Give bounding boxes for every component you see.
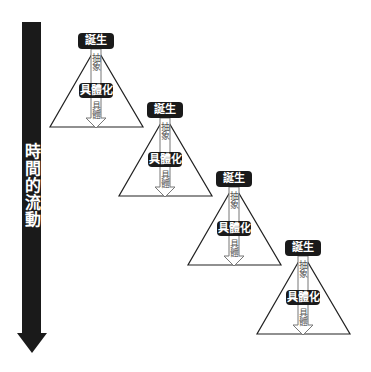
concrete-label: 具體 [229, 239, 239, 257]
abstract-label: 抽象 [91, 53, 101, 71]
concretize-label: 具體化 [79, 83, 113, 98]
abstract-label: 抽象 [160, 122, 170, 140]
abstract-label: 抽象 [298, 260, 308, 278]
concretize-label: 具體化 [217, 221, 251, 236]
abstract-label: 抽象 [229, 191, 239, 209]
birth-label: 誕生 [78, 33, 114, 49]
concretize-label: 具體化 [148, 152, 182, 167]
concrete-label: 具體 [298, 308, 308, 326]
time-axis-label: 時間的流動 [22, 143, 41, 228]
time-arrow-head [17, 333, 47, 353]
birth-label: 誕生 [147, 102, 183, 118]
birth-label: 誕生 [285, 240, 321, 256]
concrete-label: 具體 [91, 101, 101, 119]
concrete-label: 具體 [160, 170, 170, 188]
diagram-canvas [0, 0, 371, 372]
birth-label: 誕生 [216, 171, 252, 187]
concretize-label: 具體化 [286, 290, 320, 305]
